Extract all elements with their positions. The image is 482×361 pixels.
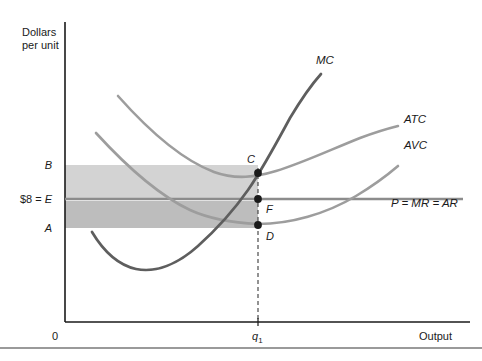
point-c-marker — [254, 169, 262, 177]
y-tick-label-a: A — [44, 222, 52, 234]
avc-curve-label: AVC — [403, 139, 428, 151]
y-tick-label-b: B — [45, 159, 52, 171]
atc-curve-label: ATC — [403, 113, 427, 125]
x-tick-label-q1: q1 — [252, 330, 263, 345]
point-f-label: F — [266, 203, 274, 215]
mc-curve-label: MC — [316, 54, 335, 66]
x-axis-label: Output — [419, 330, 452, 342]
y-tick-label-e: $8 = E — [20, 193, 53, 205]
point-d-label: D — [266, 230, 274, 242]
origin-label: 0 — [52, 330, 58, 342]
cost-curves-chart: Dollars per unit Output 0 B $8 = E A q1 … — [0, 0, 482, 361]
atc-curve-path — [118, 96, 398, 177]
point-d-marker — [254, 221, 262, 229]
point-f-marker — [254, 195, 262, 203]
y-axis-label-line2: per unit — [22, 39, 59, 51]
y-axis-label-line1: Dollars — [22, 26, 57, 38]
price-tick-letter: E — [45, 193, 53, 205]
q1-subscript: 1 — [258, 336, 263, 345]
price-tick-prefix: $8 = — [20, 193, 45, 205]
cost-curves-figure: Dollars per unit Output 0 B $8 = E A q1 … — [0, 0, 482, 361]
point-c-label: C — [247, 153, 255, 165]
price-line-label: P = MR = AR — [391, 197, 458, 209]
